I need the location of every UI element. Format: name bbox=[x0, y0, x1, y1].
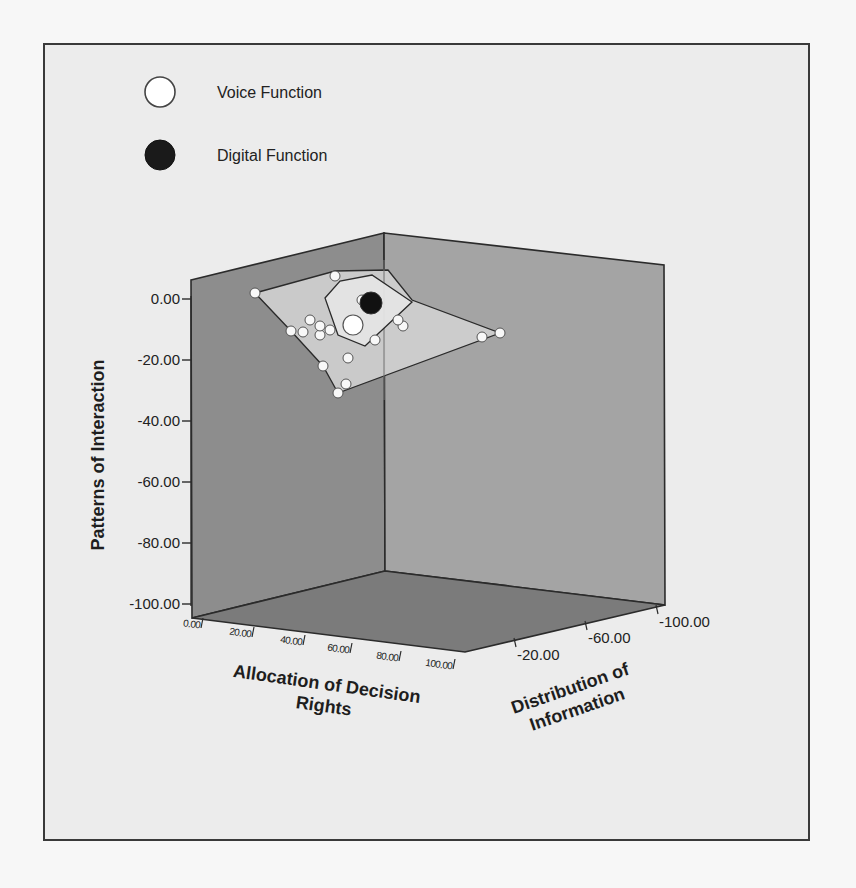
y-tick-label: -60.00 bbox=[137, 473, 180, 490]
z-tick-label: -60.00 bbox=[588, 629, 631, 646]
digital-function-legend-marker bbox=[145, 140, 175, 170]
voice-data-point bbox=[495, 328, 505, 338]
z-axis-title: Distribution of Information bbox=[509, 659, 640, 739]
x-tick-label: 20.00 bbox=[229, 626, 253, 640]
y-tick-label: -100.00 bbox=[129, 595, 180, 612]
voice-data-point bbox=[341, 379, 351, 389]
y-axis-title: Patterns of Interaction bbox=[88, 359, 108, 550]
y-tick-label: -40.00 bbox=[137, 412, 180, 429]
voice-data-point bbox=[343, 353, 353, 363]
voice-data-point bbox=[315, 321, 325, 331]
x-tick-mark bbox=[303, 635, 305, 645]
x-tick-label: 60.00 bbox=[327, 642, 351, 656]
y-tick-label: -80.00 bbox=[137, 534, 180, 551]
voice-data-point bbox=[286, 326, 296, 336]
voice-data-point bbox=[250, 288, 260, 298]
z-tick-label: -20.00 bbox=[517, 646, 560, 663]
x-tick-mark bbox=[350, 643, 352, 653]
x-tick-label: 80.00 bbox=[376, 650, 400, 664]
voice-data-point bbox=[370, 335, 380, 345]
y-tick-label: -20.00 bbox=[137, 351, 180, 368]
voice-data-point bbox=[393, 315, 403, 325]
x-tick-mark bbox=[252, 627, 254, 637]
legend: Voice Function Digital Function bbox=[145, 77, 327, 170]
voice-data-point bbox=[477, 332, 487, 342]
right-wall bbox=[384, 233, 665, 605]
voice-function-centroid bbox=[343, 315, 363, 335]
x-tick-label: 0.00 bbox=[183, 617, 202, 630]
x-axis-title: Allocation of Decision Rights bbox=[229, 661, 422, 729]
x-tick-mark bbox=[453, 659, 455, 669]
voice-function-legend-marker bbox=[145, 77, 175, 107]
chart-3d-scatter: Voice Function Digital Function 0.00-20.… bbox=[0, 0, 856, 888]
voice-data-point bbox=[298, 327, 308, 337]
voice-data-point bbox=[305, 315, 315, 325]
digital-function-legend-label: Digital Function bbox=[217, 147, 327, 164]
y-tick-label: 0.00 bbox=[151, 290, 180, 307]
x-tick-label: 100.00 bbox=[425, 657, 454, 672]
y-axis: 0.00-20.00-40.00-60.00-80.00-100.00 bbox=[129, 290, 191, 612]
voice-data-point bbox=[318, 361, 328, 371]
digital-function-centroid bbox=[360, 292, 382, 314]
x-tick-label: 40.00 bbox=[280, 634, 304, 648]
z-tick-label: -100.00 bbox=[659, 613, 710, 630]
x-tick-mark bbox=[399, 651, 401, 661]
voice-data-point bbox=[333, 388, 343, 398]
voice-data-point bbox=[330, 271, 340, 281]
voice-data-point bbox=[325, 325, 335, 335]
voice-function-legend-label: Voice Function bbox=[217, 84, 322, 101]
